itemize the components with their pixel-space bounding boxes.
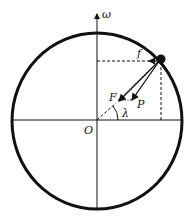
radius-dashed-line [97, 103, 116, 120]
mass-point [157, 55, 166, 64]
lambda-label: λ [121, 107, 129, 120]
origin-label: O [84, 124, 93, 137]
earth-rotation-diagram: ω O f F P λ [0, 0, 188, 221]
force-f-arrow [119, 60, 160, 101]
force-p-arrow [132, 60, 160, 100]
friction-label: f [136, 47, 143, 60]
angle-arc [113, 106, 118, 120]
force-f-label: F [108, 91, 117, 104]
force-p-label: P [136, 98, 145, 111]
omega-label: ω [102, 8, 111, 21]
